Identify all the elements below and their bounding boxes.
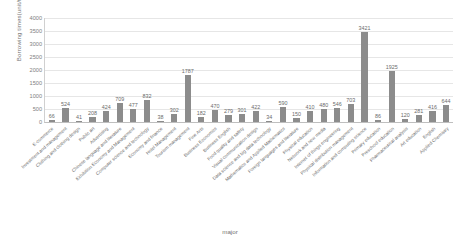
bar-slot[interactable]: 120 — [398, 18, 412, 122]
bar[interactable] — [389, 71, 395, 122]
bar[interactable] — [443, 105, 449, 122]
y-axis-tick-label: 500 — [33, 106, 42, 112]
bar[interactable] — [198, 117, 204, 122]
y-axis-tick-label: 0 — [39, 119, 42, 125]
bar-slot[interactable]: 422 — [249, 18, 263, 122]
bar[interactable] — [334, 108, 340, 122]
bar-slot[interactable]: 208 — [86, 18, 100, 122]
bar[interactable] — [348, 104, 354, 122]
bar[interactable] — [239, 114, 245, 122]
bar-value-label: 1787 — [182, 68, 194, 74]
bar-value-label: 3421 — [358, 25, 370, 31]
x-axis-title: major — [0, 228, 460, 235]
bar[interactable] — [429, 111, 435, 122]
bar-value-label: 477 — [129, 102, 138, 108]
bar-slot[interactable]: 416 — [426, 18, 440, 122]
bar-slot[interactable]: 301 — [235, 18, 249, 122]
bar-slot[interactable]: 150 — [290, 18, 304, 122]
bar-slot[interactable]: 3421 — [358, 18, 372, 122]
bar-value-label: 590 — [278, 100, 287, 106]
bar-value-label: 410 — [306, 104, 315, 110]
bar[interactable] — [225, 115, 231, 122]
bar-slot[interactable]: 279 — [222, 18, 236, 122]
bar-value-label: 424 — [102, 104, 111, 110]
bar[interactable] — [103, 111, 109, 122]
bar-value-label: 38 — [158, 114, 164, 120]
bar[interactable] — [253, 111, 259, 122]
bar-slot[interactable]: 38 — [154, 18, 168, 122]
bar-slot[interactable]: 410 — [303, 18, 317, 122]
bar-value-label: 524 — [61, 101, 70, 107]
bar[interactable] — [171, 114, 177, 122]
bar-slot[interactable]: 644 — [439, 18, 453, 122]
bar-slot[interactable]: 832 — [140, 18, 154, 122]
bar-value-label: 301 — [238, 107, 247, 113]
bar[interactable] — [49, 120, 55, 122]
bar[interactable] — [130, 109, 136, 122]
bar[interactable] — [416, 115, 422, 122]
y-axis-title: Borrowing times(unit/time) — [15, 0, 27, 83]
bar-slot[interactable]: 281 — [412, 18, 426, 122]
bar-slot[interactable]: 34 — [263, 18, 277, 122]
bar-slot[interactable]: 703 — [344, 18, 358, 122]
gridline — [45, 122, 453, 123]
y-axis-tick-label: 3000 — [30, 41, 42, 47]
bar[interactable] — [89, 117, 95, 122]
bar[interactable] — [280, 107, 286, 122]
bar-value-label: 41 — [76, 114, 82, 120]
bar-value-label: 709 — [115, 96, 124, 102]
bar-value-label: 480 — [319, 102, 328, 108]
bar[interactable] — [185, 75, 191, 122]
bar[interactable] — [266, 121, 272, 122]
bar-slot[interactable]: 546 — [330, 18, 344, 122]
bar[interactable] — [76, 121, 82, 122]
bar-series: 6652441208424709477832383021787182470279… — [45, 18, 453, 122]
bar[interactable] — [117, 103, 123, 122]
bar-value-label: 470 — [210, 103, 219, 109]
bar-value-label: 208 — [88, 110, 97, 116]
y-axis-tick-label: 3500 — [30, 28, 42, 34]
bar[interactable] — [402, 119, 408, 122]
bar-slot[interactable]: 1787 — [181, 18, 195, 122]
bar-slot[interactable]: 470 — [208, 18, 222, 122]
bar-slot[interactable]: 424 — [99, 18, 113, 122]
bar[interactable] — [157, 121, 163, 122]
bar-slot[interactable]: 66 — [45, 18, 59, 122]
bar-value-label: 546 — [333, 101, 342, 107]
bar-value-label: 279 — [224, 108, 233, 114]
bar-value-label: 66 — [49, 113, 55, 119]
bar-slot[interactable]: 590 — [276, 18, 290, 122]
bar-value-label: 281 — [414, 108, 423, 114]
bar-slot[interactable]: 41 — [72, 18, 86, 122]
bar[interactable] — [293, 118, 299, 122]
bar-value-label: 34 — [266, 114, 272, 120]
bar[interactable] — [375, 120, 381, 122]
bar-value-label: 120 — [401, 112, 410, 118]
bar[interactable] — [144, 100, 150, 122]
bar[interactable] — [62, 108, 68, 122]
bar[interactable] — [212, 110, 218, 122]
bar-value-label: 302 — [170, 107, 179, 113]
bar[interactable] — [361, 32, 367, 122]
bar-value-label: 703 — [346, 97, 355, 103]
bar-slot[interactable]: 302 — [167, 18, 181, 122]
bar-value-label: 832 — [142, 93, 151, 99]
bar-slot[interactable]: 1925 — [385, 18, 399, 122]
bar-value-label: 182 — [197, 110, 206, 116]
y-axis-tick-label: 1500 — [30, 80, 42, 86]
bar-slot[interactable]: 86 — [371, 18, 385, 122]
bar[interactable] — [307, 111, 313, 122]
bar-value-label: 1925 — [386, 64, 398, 70]
bar[interactable] — [321, 109, 327, 122]
y-axis-tick-label: 2500 — [30, 54, 42, 60]
bar-value-label: 86 — [375, 113, 381, 119]
bar-chart-figure: Borrowing times(unit/time) 4000350030002… — [0, 0, 460, 248]
plot-area: 40003500300025002000150010005000 6652441… — [44, 18, 453, 123]
bar-slot[interactable]: 480 — [317, 18, 331, 122]
bar-slot[interactable]: 709 — [113, 18, 127, 122]
bar-slot[interactable]: 524 — [59, 18, 73, 122]
bar-value-label: 422 — [251, 104, 260, 110]
bar-slot[interactable]: 477 — [127, 18, 141, 122]
y-axis-tick-label: 2000 — [30, 67, 42, 73]
bar-slot[interactable]: 182 — [195, 18, 209, 122]
